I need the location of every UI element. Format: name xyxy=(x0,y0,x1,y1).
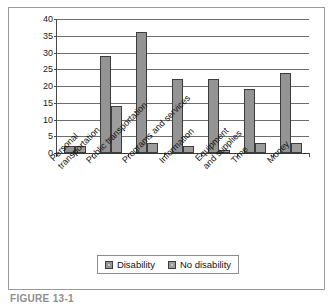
y-axis-tick-label: 25 xyxy=(43,65,53,74)
figure-caption: FIGURE 13-1 xyxy=(10,293,330,304)
legend-swatch-icon xyxy=(168,261,176,269)
y-axis-tick-labels: 4035302520151050 xyxy=(31,19,53,153)
y-axis-tick-label: 5 xyxy=(48,132,53,141)
y-axis-tick-label: 10 xyxy=(43,115,53,124)
bar-no-disability xyxy=(147,143,158,153)
legend-item: Disability xyxy=(105,259,155,270)
y-axis-tick-label: 35 xyxy=(43,31,53,40)
chart-legend: DisabilityNo disability xyxy=(97,255,239,274)
legend-label: Disability xyxy=(117,259,155,270)
figure-frame: 4035302520151050 Personal transportation… xyxy=(8,7,325,290)
y-axis-tick-label: 15 xyxy=(43,98,53,107)
bar-no-disability xyxy=(291,143,302,153)
bar-no-disability xyxy=(255,143,266,153)
y-axis-tick-label: 40 xyxy=(43,15,53,24)
chart-plot-wrapper: 4035302520151050 Personal transportation… xyxy=(9,8,324,289)
legend-swatch-icon xyxy=(105,261,113,269)
x-axis-category-labels: Personal transportationPublic transporta… xyxy=(9,156,324,251)
bar-disability xyxy=(244,89,255,153)
y-axis-tick-label: 20 xyxy=(43,82,53,91)
bar-no-disability xyxy=(183,146,194,153)
bar-group xyxy=(273,19,309,153)
legend-item: No disability xyxy=(168,259,231,270)
legend-label: No disability xyxy=(180,259,231,270)
y-axis-tick-label: 30 xyxy=(43,48,53,57)
